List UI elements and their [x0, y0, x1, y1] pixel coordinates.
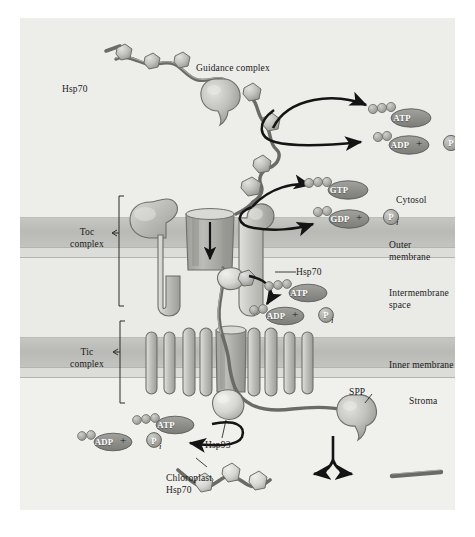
label-tic-complex: Tic complex: [57, 347, 117, 370]
label-stroma: Stroma: [409, 396, 437, 408]
phosphate-label-gtp: P: [378, 213, 404, 222]
plus-sign-stroma: +: [120, 434, 126, 446]
nucleotide-label-gtp: GTP: [309, 186, 369, 195]
chloroplast-import-figure: Cytosol Outer membrane Intermembrane spa…: [0, 0, 475, 537]
label-outer-membrane: Outer membrane: [389, 240, 455, 263]
label-hsp70-intermembrane: Hsp70: [296, 267, 322, 279]
phosphate-label-intermembrane: P: [313, 311, 339, 320]
label-cytosol: Cytosol: [396, 195, 427, 207]
plus-sign-intermembrane: +: [292, 308, 298, 320]
label-hsp70-cytosolic: Hsp70: [62, 84, 88, 96]
label-guidance-complex: Guidance complex: [196, 63, 270, 75]
label-spp: SPP: [349, 387, 365, 399]
phosphate-label-cytosol: P: [438, 139, 455, 148]
phosphate-subscript-stroma: i: [159, 441, 162, 451]
label-toc-complex: Toc complex: [57, 227, 117, 250]
label-chloroplast-hsp70: Chloroplast Hsp70: [166, 473, 212, 496]
phosphate-subscript-intermembrane: i: [331, 315, 334, 325]
phosphate-subscript-gtp: i: [396, 217, 399, 227]
label-intermembrane-space: Intermembrane space: [389, 288, 449, 311]
nucleotide-label-atp-intermembrane: ATP: [270, 289, 328, 298]
nucleotide-label-atp-stroma: ATP: [137, 421, 195, 430]
plus-sign-cytosol: +: [416, 137, 422, 149]
label-inner-membrane: Inner membrane: [389, 360, 454, 372]
nucleotide-label-atp-cytosol: ATP: [372, 114, 432, 123]
diagram-panel: Cytosol Outer membrane Intermembrane spa…: [20, 18, 455, 510]
label-hsp93: Hsp93: [205, 440, 231, 452]
plus-sign-gtp: +: [356, 211, 362, 223]
phosphate-label-stroma: P: [141, 437, 167, 446]
